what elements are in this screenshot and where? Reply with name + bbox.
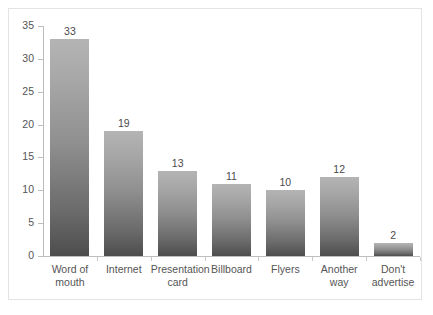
bar-fill [104,131,143,256]
bar-fill [158,171,197,256]
x-axis-tick-mark [97,257,98,261]
y-axis-tick-mark [38,256,43,257]
bar-chart: 05101520253035 Word of mouthInternetPres… [0,0,433,315]
x-axis-category-label: Internet [97,263,151,276]
y-axis-tick-mark [38,59,43,60]
bar-fill [320,177,359,256]
y-axis-tick-label: 15 [4,151,34,162]
bar-value-label: 10 [255,176,315,188]
x-axis-tick-mark [151,257,152,261]
x-axis-tick-mark [312,257,313,261]
x-axis-category-label: Presentation card [151,263,205,289]
bar-value-label: 12 [309,163,369,175]
x-axis-line [43,256,420,257]
bar [266,190,305,256]
bar [320,177,359,256]
bar [50,39,89,256]
y-axis-tick-label: 25 [4,86,34,97]
bar-value-label: 33 [40,25,100,37]
x-axis-category-label: Word of mouth [43,263,97,289]
bar-fill [266,190,305,256]
y-axis-tick-mark [38,125,43,126]
bar [374,243,413,256]
y-axis-tick-mark [38,190,43,191]
bar-fill [374,243,413,256]
y-axis-tick-label: 30 [4,53,34,64]
y-axis-tick-mark [38,223,43,224]
y-axis-line [43,26,44,256]
bar [212,184,251,256]
y-axis-tick-mark [38,157,43,158]
x-axis-category-label: Billboard [205,263,259,276]
x-axis-category-label: Flyers [258,263,312,276]
x-axis-tick-mark [366,257,367,261]
bar-fill [50,39,89,256]
y-axis-tick-label: 20 [4,119,34,130]
bar [158,171,197,256]
y-axis-tick-label: 35 [4,20,34,31]
x-axis-category-label: Another way [312,263,366,289]
x-axis-category-label: Don't advertise [366,263,420,289]
bar-value-label: 13 [148,157,208,169]
y-axis-tick-mark [38,92,43,93]
y-axis-tick-label: 5 [4,217,34,228]
bar-fill [212,184,251,256]
bar-value-label: 2 [363,229,423,241]
x-axis-tick-mark [420,257,421,261]
x-axis-tick-mark [205,257,206,261]
y-axis-tick-label: 0 [4,250,34,261]
bar-value-label: 11 [202,170,262,182]
bar-value-label: 19 [94,117,154,129]
y-axis-tick-label: 10 [4,184,34,195]
x-axis-tick-mark [258,257,259,261]
bar [104,131,143,256]
